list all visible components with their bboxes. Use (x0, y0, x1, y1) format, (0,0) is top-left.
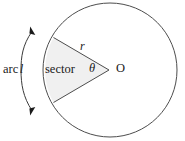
arc-length-label: arcl (3, 63, 23, 76)
center-point-label: O (116, 62, 125, 75)
sector-diagram: arcl sector θ r O (0, 0, 185, 141)
sector-label: sector (45, 63, 75, 76)
central-angle-theta-label: θ (89, 62, 95, 75)
radius-label: r (80, 40, 85, 52)
arc-length-label-symbol: l (18, 62, 23, 76)
arc-length-label-word: arc (3, 62, 18, 76)
